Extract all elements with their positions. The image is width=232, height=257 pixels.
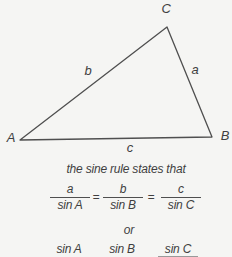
fraction-numerator: a xyxy=(50,183,90,197)
fraction-b-over-sin-b: b sin B xyxy=(103,183,143,212)
equals-sign: = xyxy=(145,190,157,204)
alternate-term-sin-b: sin B xyxy=(102,243,142,256)
fraction-denominator: sin B xyxy=(103,197,143,212)
side-label-a: a xyxy=(187,63,203,76)
sine-rule-figure: C A B b a c the sine rule states that a … xyxy=(0,0,232,257)
fraction-c-over-sin-c: c sin C xyxy=(161,183,201,212)
side-label-b: b xyxy=(80,64,96,77)
or-label: or xyxy=(23,224,232,237)
fraction-denominator: sin A xyxy=(50,197,90,212)
caption-text: the sine rule states that xyxy=(20,163,232,176)
vertex-label-c: C xyxy=(158,2,174,15)
equals-sign: = xyxy=(90,190,102,204)
fraction-numerator: c xyxy=(161,183,201,197)
fraction-numerator: b xyxy=(103,183,143,197)
alternate-term-sin-a: sin A xyxy=(49,243,89,256)
alternate-term-sin-c: sin C xyxy=(158,243,198,257)
triangle-diagram xyxy=(0,0,232,257)
vertex-label-b: B xyxy=(217,129,232,142)
fraction-a-over-sin-a: a sin A xyxy=(50,183,90,212)
side-label-c: c xyxy=(122,141,138,154)
fraction-denominator: sin C xyxy=(161,197,201,212)
triangle-outline xyxy=(20,27,212,140)
vertex-label-a: A xyxy=(3,131,19,144)
